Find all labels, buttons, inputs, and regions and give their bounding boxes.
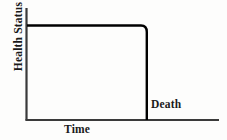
y-axis-label: Health Status bbox=[13, 2, 25, 71]
health-status-over-time-chart: Health Status Time Death bbox=[0, 0, 227, 140]
chart-plot-area bbox=[0, 0, 227, 140]
death-annotation-label: Death bbox=[151, 99, 181, 111]
x-axis-label: Time bbox=[64, 124, 90, 136]
health-status-curve bbox=[27, 26, 147, 121]
